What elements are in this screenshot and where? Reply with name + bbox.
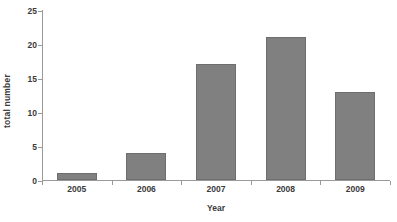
y-axis-title-text: total number: [2, 74, 12, 128]
y-tick-mark: [38, 11, 42, 12]
y-axis-title: total number: [0, 55, 14, 147]
y-tick-label: 5: [32, 142, 37, 152]
y-tick-label: 0: [32, 176, 37, 186]
y-tick-mark: [38, 147, 42, 148]
x-axis-tick-labels: 20052006200720082009: [42, 184, 390, 198]
x-tick-label: 2009: [346, 184, 365, 194]
bar: [266, 37, 306, 180]
x-tick-label: 2007: [207, 184, 226, 194]
y-tick-label: 15: [28, 74, 37, 84]
y-tick-mark: [38, 79, 42, 80]
y-tick-label: 10: [28, 108, 37, 118]
bar: [196, 64, 236, 180]
bar: [126, 153, 166, 180]
x-axis-title: Year: [42, 203, 390, 213]
y-axis-tick-labels: 0510152025: [14, 0, 40, 222]
bar: [335, 92, 375, 180]
y-tick-mark: [38, 113, 42, 114]
y-tick-mark: [38, 45, 42, 46]
x-tick-label: 2008: [276, 184, 295, 194]
y-tick-label: 25: [28, 6, 37, 16]
bar: [57, 173, 97, 180]
bars-layer: [42, 10, 390, 181]
x-tick-mark: [390, 181, 391, 185]
bar-chart-figure: total number 0510152025 2005200620072008…: [0, 0, 397, 222]
x-tick-label: 2005: [67, 184, 86, 194]
x-tick-label: 2006: [137, 184, 156, 194]
y-tick-label: 20: [28, 40, 37, 50]
plot-area: [42, 10, 390, 181]
